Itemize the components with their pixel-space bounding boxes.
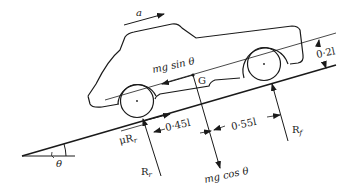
dim-045-label: 0·45l bbox=[164, 117, 191, 133]
free-body-diagram: a G mg sin θ mg cos θ Rr μRr Rf 0·45l 0·… bbox=[0, 0, 356, 188]
dim-055-arrow-left bbox=[214, 126, 225, 130]
mg-sin-theta-arrow bbox=[162, 75, 193, 84]
center-of-gravity-label: G bbox=[198, 75, 206, 86]
dim-055-label: 0·55l bbox=[230, 116, 257, 132]
front-wheel-hub bbox=[263, 63, 265, 65]
friction-arrow bbox=[143, 114, 170, 121]
mg-cos-theta-label: mg cos θ bbox=[203, 165, 249, 185]
angle-arc bbox=[64, 144, 66, 156]
front-wheel-arch bbox=[243, 48, 288, 78]
friction-label: μRr bbox=[118, 131, 138, 147]
rear-wheel-hub bbox=[136, 100, 138, 102]
dim-02-arrow-top bbox=[318, 40, 319, 47]
front-reaction-arrow bbox=[272, 84, 288, 141]
front-reaction-label: Rf bbox=[292, 124, 304, 137]
mg-sin-theta-label: mg sin θ bbox=[151, 55, 195, 75]
rear-reaction-label: Rr bbox=[141, 166, 153, 179]
dim-055-arrow-right bbox=[267, 115, 280, 117]
angle-label: θ bbox=[56, 158, 62, 169]
acceleration-arrow bbox=[124, 14, 164, 25]
dim-02-arrow-bottom bbox=[324, 62, 326, 68]
angle-leader bbox=[51, 152, 54, 158]
mg-cos-theta-arrow bbox=[193, 75, 220, 168]
dim-045-arrow-left bbox=[154, 129, 165, 132]
dim-02-label: 0·2l bbox=[315, 45, 336, 60]
acceleration-label: a bbox=[136, 7, 142, 18]
